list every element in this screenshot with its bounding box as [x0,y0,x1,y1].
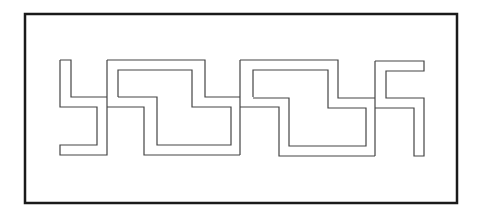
left-end-hook [60,60,107,155]
meander-pattern [60,60,424,156]
s-unit-1 [107,60,240,155]
fret-pattern-diagram [0,0,481,221]
s-unit-2 [240,60,375,156]
right-end-hook [375,61,424,156]
